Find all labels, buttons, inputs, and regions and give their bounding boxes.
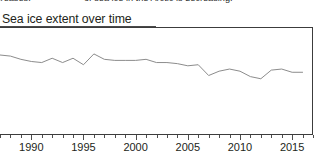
- x-axis-major-tick: [136, 135, 137, 140]
- x-axis-major-tick: [31, 135, 32, 140]
- x-axis-minor-tick: [271, 135, 272, 138]
- x-axis: 199019952000200520102015: [0, 134, 326, 157]
- chart-plot-frame: [0, 27, 313, 135]
- x-axis-minor-tick: [177, 135, 178, 138]
- sea-ice-line-chart: [0, 28, 313, 135]
- x-axis-minor-tick: [198, 135, 199, 138]
- clipped-paragraph-strip: creases. of sea ice in the Arctic is dec…: [0, 0, 326, 11]
- x-axis-minor-tick: [219, 135, 220, 138]
- x-axis-tick-label: 2015: [280, 141, 304, 154]
- x-axis-minor-tick: [146, 135, 147, 138]
- x-axis-minor-tick: [0, 135, 1, 138]
- x-axis-minor-tick: [10, 135, 11, 138]
- x-axis-minor-tick: [115, 135, 116, 138]
- x-axis-minor-tick: [94, 135, 95, 138]
- x-axis-minor-tick: [209, 135, 210, 138]
- x-axis-minor-tick: [63, 135, 64, 138]
- x-axis-tick-label: 2010: [228, 141, 252, 154]
- x-axis-tick-label: 1990: [19, 141, 43, 154]
- x-axis-minor-tick: [21, 135, 22, 138]
- x-axis-minor-tick: [167, 135, 168, 138]
- x-axis-tick-label: 1995: [71, 141, 95, 154]
- chart-title: Sea ice extent over time: [2, 12, 132, 26]
- x-axis-tick-label: 2005: [176, 141, 200, 154]
- x-axis-major-tick: [188, 135, 189, 140]
- x-axis-minor-tick: [104, 135, 105, 138]
- x-axis-minor-tick: [42, 135, 43, 138]
- x-axis-minor-tick: [282, 135, 283, 138]
- x-axis-tick-label: 2000: [123, 141, 147, 154]
- x-axis-minor-tick: [250, 135, 251, 138]
- x-axis-minor-tick: [157, 135, 158, 138]
- clipped-text-left: creases.: [0, 0, 31, 4]
- x-axis-minor-tick: [313, 135, 314, 138]
- clipped-text-right: of sea ice in the Arctic is decreasing.: [84, 0, 233, 4]
- data-series-line: [0, 54, 303, 79]
- x-axis-major-tick: [83, 135, 84, 140]
- x-axis-minor-tick: [303, 135, 304, 138]
- x-axis-minor-tick: [52, 135, 53, 138]
- x-axis-minor-tick: [73, 135, 74, 138]
- x-axis-minor-tick: [261, 135, 262, 138]
- x-axis-major-tick: [240, 135, 241, 140]
- x-axis-major-tick: [292, 135, 293, 140]
- x-axis-minor-tick: [230, 135, 231, 138]
- x-axis-minor-tick: [125, 135, 126, 138]
